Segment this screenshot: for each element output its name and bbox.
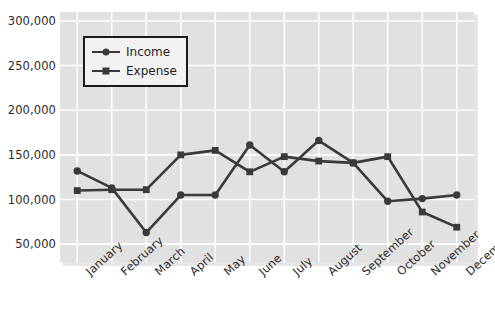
legend-label-expense: Expense (126, 65, 177, 77)
x-axis-tick-labels: JanuaryFebruaryMarchAprilMayJuneJulyAugu… (0, 266, 495, 328)
legend-label-income: Income (126, 46, 170, 58)
x-tick-label: October (394, 268, 403, 278)
x-tick-label: February (118, 268, 127, 278)
legend-marker-expense-icon (92, 65, 120, 77)
y-tick-label: 300,000 (8, 14, 56, 28)
y-tick-label: 50,000 (15, 237, 56, 251)
legend-marker-income-icon (92, 46, 120, 58)
x-tick-label: September (359, 268, 368, 278)
x-tick-label: July (290, 268, 299, 278)
x-tick-label: December (463, 268, 472, 278)
line-chart: 50,000100,000150,000200,000250,000300,00… (0, 0, 495, 328)
y-tick-label: 250,000 (8, 59, 56, 73)
x-tick-label: March (152, 268, 161, 278)
x-tick-label: November (428, 268, 437, 278)
y-tick-label: 150,000 (8, 148, 56, 162)
legend-item-expense: Expense (92, 61, 177, 80)
legend-item-income: Income (92, 42, 177, 61)
x-tick-label: June (256, 268, 265, 278)
x-tick-label: April (187, 268, 196, 278)
x-tick-label: August (325, 268, 334, 278)
y-tick-label: 100,000 (8, 193, 56, 207)
x-tick-label: May (221, 268, 230, 278)
y-tick-label: 200,000 (8, 103, 56, 117)
chart-legend: Income Expense (83, 36, 188, 87)
x-tick-label: January (83, 268, 92, 278)
